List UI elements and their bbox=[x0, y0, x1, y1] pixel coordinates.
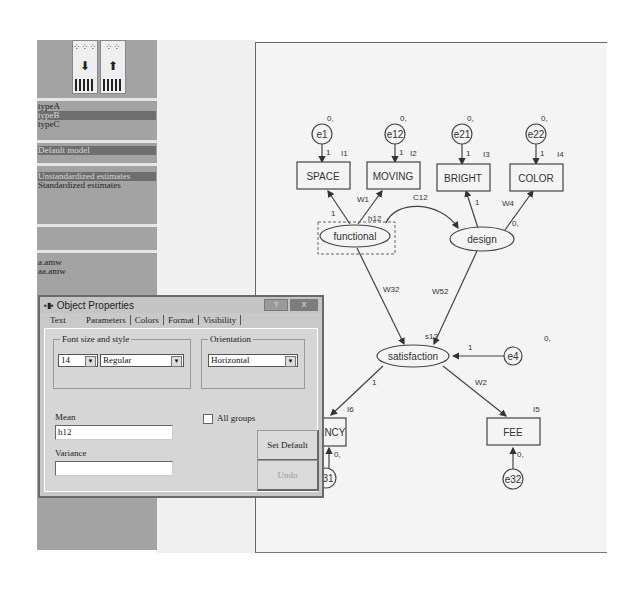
svg-text:I6: I6 bbox=[347, 405, 354, 414]
orientation-select[interactable]: Horizontal ▼ bbox=[208, 354, 298, 367]
object-properties-dialog: ▪▮▪ Object Properties ? X Text Parameter… bbox=[38, 295, 324, 498]
svg-text:1: 1 bbox=[468, 343, 473, 352]
svg-text:I3: I3 bbox=[483, 150, 490, 159]
observed-moving: MOVING bbox=[373, 171, 414, 182]
svg-text:0,: 0, bbox=[544, 334, 551, 343]
observed-bright: BRIGHT bbox=[444, 173, 482, 184]
svg-text:0,: 0, bbox=[512, 219, 519, 228]
tab-colors[interactable]: Colors bbox=[131, 315, 164, 325]
latent-satisfaction: satisfaction bbox=[388, 351, 438, 362]
help-button[interactable]: ? bbox=[264, 299, 288, 311]
error-e1: e1 bbox=[316, 129, 328, 140]
tab-visibility[interactable]: Visibility bbox=[199, 315, 241, 325]
font-size-value: 14 bbox=[61, 355, 70, 365]
svg-text:I5: I5 bbox=[533, 405, 540, 414]
svg-text:0,: 0, bbox=[517, 450, 524, 459]
error-e22: e22 bbox=[528, 129, 545, 140]
chevron-down-icon[interactable]: ▼ bbox=[171, 356, 182, 367]
all-groups-checkbox[interactable] bbox=[203, 414, 213, 424]
chevron-down-icon[interactable]: ▼ bbox=[85, 356, 96, 367]
dialog-title: Object Properties bbox=[57, 300, 134, 311]
parameters-panel: Font size and style 14 ▼ Regular ▼ Orien… bbox=[44, 328, 318, 492]
svg-text:W4: W4 bbox=[502, 199, 515, 208]
observed-fee: FEE bbox=[503, 427, 523, 438]
error-e31: 31 bbox=[322, 473, 334, 484]
error-e21: e21 bbox=[454, 129, 471, 140]
set-default-button[interactable]: Set Default bbox=[257, 430, 319, 461]
svg-text:1: 1 bbox=[326, 148, 331, 157]
all-groups-label: All groups bbox=[217, 413, 255, 423]
orientation-value: Horizontal bbox=[211, 355, 250, 365]
undo-button[interactable]: Undo bbox=[257, 460, 319, 491]
font-group-label: Font size and style bbox=[60, 334, 131, 344]
observed-space: SPACE bbox=[306, 171, 339, 182]
svg-text:1: 1 bbox=[475, 198, 480, 207]
svg-text:1: 1 bbox=[540, 149, 545, 158]
svg-text:1: 1 bbox=[466, 149, 471, 158]
window-buttons: ? X bbox=[264, 299, 318, 311]
variance-label: Variance bbox=[55, 448, 86, 458]
close-button[interactable]: X bbox=[290, 299, 318, 311]
latent-design: design bbox=[467, 234, 496, 245]
svg-text:W52: W52 bbox=[432, 287, 449, 296]
svg-text:0,: 0, bbox=[327, 114, 334, 123]
tab-text[interactable]: Text bbox=[46, 315, 70, 325]
svg-text:W32: W32 bbox=[383, 285, 400, 294]
chevron-down-icon[interactable]: ▼ bbox=[285, 356, 296, 367]
svg-text:C12: C12 bbox=[413, 193, 428, 202]
svg-text:I4: I4 bbox=[557, 150, 564, 159]
tab-format[interactable]: Format bbox=[164, 315, 199, 325]
tab-parameters[interactable]: Parameters bbox=[82, 315, 131, 325]
svg-text:W2: W2 bbox=[475, 378, 488, 387]
mean-label: Mean bbox=[55, 412, 76, 422]
observed-color: COLOR bbox=[518, 173, 554, 184]
orientation-group: Orientation Horizontal ▼ bbox=[201, 339, 305, 389]
dialog-tabs: Text Parameters Colors Format Visibility bbox=[46, 315, 241, 325]
svg-text:1: 1 bbox=[331, 209, 336, 218]
font-style-value: Regular bbox=[103, 355, 132, 365]
variance-input[interactable] bbox=[55, 461, 173, 476]
svg-text:0,: 0, bbox=[400, 114, 407, 123]
app-icon: ▪▮▪ bbox=[44, 301, 54, 310]
svg-text:0,: 0, bbox=[334, 450, 341, 459]
svg-text:s12: s12 bbox=[425, 332, 438, 341]
font-group: Font size and style 14 ▼ Regular ▼ bbox=[53, 339, 191, 389]
error-e4: e4 bbox=[507, 351, 519, 362]
svg-text:I1: I1 bbox=[341, 149, 348, 158]
svg-text:1: 1 bbox=[399, 148, 404, 157]
svg-text:h12: h12 bbox=[368, 214, 382, 223]
svg-text:I2: I2 bbox=[410, 149, 417, 158]
orientation-group-label: Orientation bbox=[208, 334, 253, 344]
svg-text:1: 1 bbox=[372, 378, 377, 387]
svg-text:0,: 0, bbox=[467, 114, 474, 123]
latent-functional: functional bbox=[334, 231, 377, 242]
svg-text:0,: 0, bbox=[541, 114, 548, 123]
svg-text:W1: W1 bbox=[357, 195, 370, 204]
error-e12: e12 bbox=[387, 129, 404, 140]
error-e32: e32 bbox=[505, 474, 522, 485]
font-style-select[interactable]: Regular ▼ bbox=[100, 354, 184, 367]
mean-input[interactable]: h12 bbox=[55, 425, 173, 440]
font-size-select[interactable]: 14 ▼ bbox=[58, 354, 98, 367]
